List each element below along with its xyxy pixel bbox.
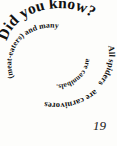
- spiral-segment-1: All spiders: [96, 45, 117, 89]
- spiral-segment-2: are carnivores: [43, 88, 100, 111]
- spiral-segment-4: are cannibals.: [56, 58, 92, 90]
- page-number: 19: [93, 119, 106, 132]
- page-canvas: Did you know? All spiders are carnivores…: [0, 0, 117, 146]
